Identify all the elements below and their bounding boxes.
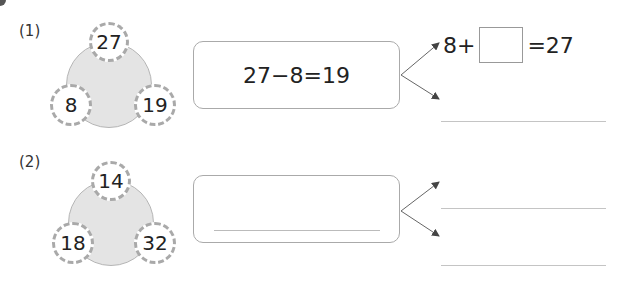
answer-prefix: 8+ — [443, 33, 475, 58]
top-number-circle: 27 — [89, 22, 129, 62]
problem-1-answer-2-line[interactable] — [441, 121, 606, 122]
problem-2-answer-2-line[interactable] — [441, 265, 606, 266]
left-number-circle: 8 — [50, 84, 92, 126]
equation-text: 27−8=19 — [243, 63, 350, 88]
problem-2-label: (2) — [19, 153, 40, 171]
top-number-circle: 14 — [91, 161, 131, 201]
problem-1-answer-1: 8+ =27 — [443, 27, 574, 63]
problem-2-answer-1-line[interactable] — [441, 208, 606, 209]
right-number-circle: 32 — [134, 222, 176, 264]
problem-1-equation-box: 27−8=19 — [193, 41, 400, 109]
problem-2-equation-blank-line — [214, 230, 380, 231]
answer-suffix: =27 — [527, 33, 573, 58]
left-number-circle: 18 — [52, 222, 94, 264]
problem-2-equation-box[interactable] — [193, 175, 400, 243]
right-number-circle: 19 — [134, 84, 176, 126]
answer-box-input[interactable] — [479, 27, 523, 63]
problem-1-label: (1) — [19, 22, 40, 40]
